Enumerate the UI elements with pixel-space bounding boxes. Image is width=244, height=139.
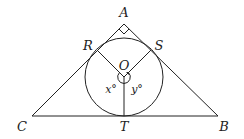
label-t: T [120, 119, 130, 134]
geometry-diagram: A R S O x° y° C T B [0, 0, 244, 139]
label-r: R [82, 38, 93, 53]
right-angle-marker [119, 29, 129, 34]
label-b: B [218, 119, 229, 134]
label-angle-x: x° [105, 83, 117, 96]
label-s: S [155, 38, 164, 53]
label-o: O [119, 58, 130, 73]
label-angle-y: y° [130, 83, 143, 96]
side-ab [124, 24, 218, 116]
diagram-canvas: A R S O x° y° C T B [0, 0, 244, 139]
label-c: C [17, 119, 27, 134]
label-a: A [118, 5, 128, 20]
side-ca [32, 24, 124, 116]
